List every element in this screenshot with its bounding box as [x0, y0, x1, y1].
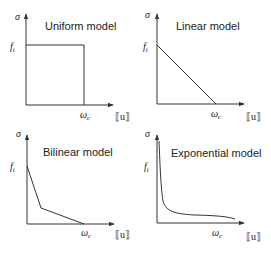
omega-c-label: ωc [211, 108, 222, 121]
ft-label: ft [144, 161, 150, 174]
y-axis-label: σ [145, 9, 151, 20]
omega-c-label: ωc [81, 227, 92, 240]
y-axis-label: σ [15, 11, 21, 22]
y-axis-label: σ [16, 128, 22, 139]
x-axis-label: ⟦u⟧ [246, 111, 261, 122]
panel-title: Bilinear model [43, 146, 113, 158]
cohesive-law-diagram: σ ft ωc ⟦u⟧ Uniform model σ ft ωc ⟦u⟧ Li… [0, 0, 271, 256]
bilinear-curve [27, 166, 84, 224]
omega-c-label: ωc [80, 109, 91, 122]
uniform-curve [26, 45, 84, 105]
panel-uniform: σ ft ωc ⟦u⟧ Uniform model [10, 11, 130, 122]
x-axis-label: ⟦u⟧ [115, 229, 130, 240]
panel-linear: σ ft ωc ⟦u⟧ Linear model [143, 9, 261, 122]
y-axis-label: σ [145, 128, 151, 139]
panel-bilinear: σ ft ωc ⟦u⟧ Bilinear model [10, 128, 130, 240]
linear-curve [157, 45, 216, 104]
omega-c-label: ωc [212, 227, 223, 240]
panel-title: Uniform model [45, 20, 117, 32]
ft-label: ft [143, 41, 149, 54]
panel-exponential: σ ft ωc ⟦u⟧ Exponential model [144, 128, 262, 242]
x-axis-label: ⟦u⟧ [115, 111, 130, 122]
ft-label: ft [10, 161, 16, 174]
x-axis-label: ⟦u⟧ [246, 231, 261, 242]
panel-title: Linear model [176, 20, 240, 32]
ft-label: ft [10, 41, 16, 54]
panel-title: Exponential model [171, 147, 262, 159]
